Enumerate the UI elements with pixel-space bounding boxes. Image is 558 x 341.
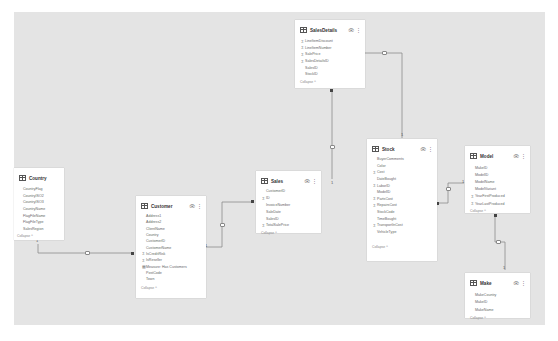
cross-filter-icon[interactable]	[446, 187, 451, 191]
cross-filter-icon[interactable]	[220, 223, 225, 227]
field-row[interactable]: BuyerComments	[372, 156, 437, 163]
field-row[interactable]: CountryFlag	[18, 186, 64, 193]
cardinality-one: 1	[401, 132, 403, 137]
field-row[interactable]: MakeCountry	[470, 291, 530, 299]
table-title: Customer	[151, 204, 189, 209]
more-options-icon[interactable]: ⋮	[197, 203, 202, 209]
field-row[interactable]: ΣID	[261, 195, 321, 202]
eye-icon[interactable]: 👁	[304, 178, 310, 184]
field-row[interactable]: ΣLineItemNumber	[300, 45, 365, 52]
field-row[interactable]: ModelID	[372, 189, 437, 196]
field-row[interactable]: ΣCost	[372, 169, 437, 176]
field-row[interactable]: ΣPartsCost	[372, 196, 437, 203]
field-row[interactable]: ΣYearLastProduced	[470, 200, 530, 207]
field-row[interactable]: MakeID	[470, 164, 530, 171]
table-card-sales[interactable]: Sales👁⋮ CustomerID ΣID InvoiceNumber Sal…	[256, 171, 321, 233]
field-row[interactable]: ModelID	[470, 171, 530, 178]
table-icon	[470, 280, 477, 286]
cross-filter-icon[interactable]	[330, 145, 335, 149]
field-row[interactable]: CustomerID	[261, 188, 321, 195]
more-options-icon[interactable]: ⋮	[521, 280, 526, 286]
cross-filter-icon[interactable]	[496, 240, 501, 244]
cardinality-many-icon	[251, 200, 254, 203]
collapse-button[interactable]: Collapse ^	[465, 207, 530, 213]
eye-icon[interactable]: 👁	[189, 203, 195, 209]
field-row[interactable]: ModelName	[470, 178, 530, 185]
table-icon	[141, 203, 148, 209]
field-row[interactable]: DateBought	[372, 176, 437, 183]
field-row[interactable]: SaleDate	[261, 208, 321, 215]
field-row[interactable]: CountryISO3	[18, 199, 64, 206]
field-row[interactable]: ΣYearFirstProduced	[470, 193, 530, 200]
cross-filter-icon[interactable]	[85, 251, 90, 255]
field-row[interactable]: ΣTotalSalePrice	[261, 222, 321, 229]
table-card-stock[interactable]: Stock👁⋮ BuyerComments Color ΣCost DateBo…	[367, 139, 437, 261]
table-icon	[372, 146, 379, 152]
collapse-button[interactable]: Collapse ^	[256, 229, 321, 235]
field-row[interactable]: MakeName	[470, 306, 530, 314]
table-card-customer[interactable]: Customer👁⋮ Address1 Address2 ClientName …	[136, 196, 206, 298]
field-row[interactable]: ModelVariant	[470, 186, 530, 193]
collapse-button[interactable]: Collapse ^	[465, 314, 530, 320]
eye-icon[interactable]: 👁	[420, 146, 426, 152]
more-options-icon[interactable]: ⋮	[428, 146, 433, 152]
field-row[interactable]: VehicleType	[372, 229, 437, 236]
field-row[interactable]: CountryName	[18, 206, 64, 213]
field-row[interactable]: StockID	[300, 71, 365, 78]
collapse-button[interactable]: Collapse ^	[136, 282, 206, 290]
eye-icon[interactable]: 👁	[513, 153, 519, 159]
field-row[interactable]: Color	[372, 163, 437, 170]
cardinality-many-icon	[330, 89, 333, 92]
cardinality-one: 1	[462, 179, 464, 184]
cardinality-many-icon	[131, 252, 134, 255]
field-row[interactable]: ΣTransportInCost	[372, 222, 437, 229]
collapse-button[interactable]: Collapse ^	[367, 235, 437, 249]
collapse-button[interactable]: Collapse ^	[14, 232, 64, 238]
field-row[interactable]: ΣLineItemDiscount	[300, 38, 365, 45]
table-icon	[300, 27, 307, 33]
cross-filter-icon[interactable]	[382, 51, 387, 55]
table-card-make[interactable]: Make👁⋮ MakeCountry MakeID MakeName Colla…	[465, 273, 530, 318]
field-row[interactable]: TimeBought	[372, 215, 437, 222]
field-row[interactable]: ΣLaborID	[372, 182, 437, 189]
table-title: Model	[480, 154, 513, 159]
field-row[interactable]: SalesRegion	[18, 226, 64, 233]
field-row[interactable]: ΣSalePrice	[300, 51, 365, 58]
field-row[interactable]: SalesID	[261, 215, 321, 222]
table-icon	[19, 175, 26, 181]
cardinality-one: 1	[503, 265, 505, 270]
table-card-country[interactable]: Country CountryFlag CountryISO2 CountryI…	[14, 168, 64, 240]
table-title: Country	[29, 176, 60, 181]
table-card-salesdetails[interactable]: SalesDetails👁⋮ ΣLineItemDiscount ΣLineIt…	[295, 20, 365, 88]
eye-icon[interactable]: 👁	[348, 27, 354, 33]
table-card-model[interactable]: Model👁⋮ MakeID ModelID ModelName ModelVa…	[465, 146, 530, 213]
table-title: Make	[480, 281, 513, 286]
table-icon	[470, 153, 477, 159]
more-options-icon[interactable]: ⋮	[312, 178, 317, 184]
field-row[interactable]: InvoiceNumber	[261, 202, 321, 209]
field-row[interactable]: SalesID	[300, 64, 365, 71]
field-row[interactable]: FlagFileType	[18, 219, 64, 226]
table-title: SalesDetails	[310, 28, 348, 33]
field-row[interactable]: MakeID	[470, 299, 530, 307]
field-row[interactable]: StockCode	[372, 209, 437, 216]
more-options-icon[interactable]: ⋮	[356, 27, 361, 33]
field-row[interactable]: ΣSalesDetailsID	[300, 58, 365, 65]
table-icon	[261, 178, 268, 184]
eye-icon[interactable]: 👁	[513, 280, 519, 286]
table-title: Sales	[271, 179, 304, 184]
field-row[interactable]: FlagFileName	[18, 212, 64, 219]
more-options-icon[interactable]: ⋮	[521, 153, 526, 159]
field-row[interactable]: ΣRepairsCost	[372, 202, 437, 209]
table-title: Stock	[382, 147, 420, 152]
field-row[interactable]: CountryISO2	[18, 193, 64, 200]
collapse-button[interactable]: Collapse ^	[295, 78, 365, 84]
cardinality-many-icon	[494, 214, 497, 217]
cardinality-one: 1	[331, 180, 333, 185]
